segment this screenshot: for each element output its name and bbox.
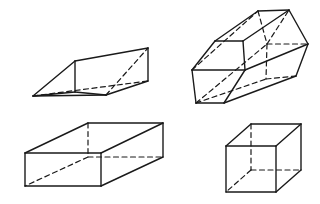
figure-background bbox=[0, 0, 320, 204]
visible-edge bbox=[258, 10, 289, 11]
geometric-solids-figure: Triangular Prism Hexagonal Prism Rectang… bbox=[0, 0, 320, 204]
